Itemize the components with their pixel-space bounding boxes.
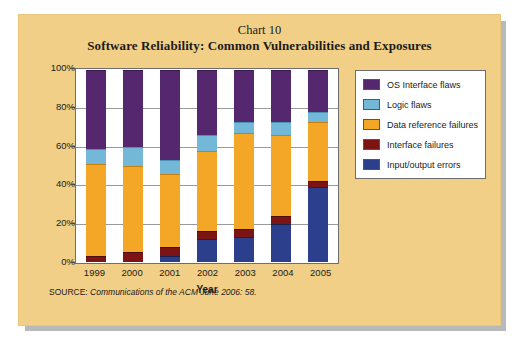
bar-segment[interactable]: [234, 122, 254, 134]
chart-card: Chart 10 Software Reliability: Common Vu…: [18, 14, 501, 326]
y-tick-label: 20%: [37, 217, 75, 228]
legend-swatch-icon: [363, 159, 380, 170]
bar-segment[interactable]: [86, 164, 106, 256]
bar-segment[interactable]: [86, 256, 106, 262]
x-tick-label: 1999: [84, 267, 104, 278]
bar-column[interactable]: [197, 70, 217, 262]
legend-item[interactable]: Logic flaws: [363, 99, 479, 110]
y-tick-label: 0%: [37, 256, 75, 267]
bar-segment[interactable]: [234, 229, 254, 237]
bar-segment[interactable]: [160, 247, 180, 257]
bar-segment[interactable]: [197, 70, 217, 135]
bar-segment[interactable]: [271, 135, 291, 216]
bar-segment[interactable]: [234, 237, 254, 262]
chart-number: Chart 10: [19, 23, 500, 38]
bar-segment[interactable]: [234, 133, 254, 229]
bar-column[interactable]: [234, 70, 254, 262]
stacked-bar[interactable]: [160, 70, 180, 262]
y-tick-label: 100%: [37, 62, 75, 73]
bar-column[interactable]: [271, 70, 291, 262]
bar-segment[interactable]: [123, 252, 143, 262]
bar-segment[interactable]: [271, 122, 291, 135]
bar-segment[interactable]: [123, 166, 143, 252]
bar-segment[interactable]: [271, 70, 291, 122]
plot-canvas: [75, 68, 339, 264]
bar-segment[interactable]: [86, 149, 106, 164]
legend-label: OS Interface flaws: [387, 80, 461, 90]
y-tick-label: 80%: [37, 101, 75, 112]
x-tick-label: 2002: [197, 267, 217, 278]
bar-segment[interactable]: [308, 112, 328, 122]
bar-segment[interactable]: [160, 256, 180, 262]
page-title: Software Reliability: Common Vulnerabili…: [19, 38, 500, 54]
legend-swatch-icon: [363, 99, 380, 110]
bar-segment[interactable]: [160, 174, 180, 247]
bar-segment[interactable]: [123, 147, 143, 166]
bar-segment[interactable]: [308, 187, 328, 262]
bar-segment[interactable]: [86, 70, 106, 149]
bar-segment[interactable]: [271, 216, 291, 224]
y-tick-label: 40%: [37, 178, 75, 189]
stacked-bar[interactable]: [86, 70, 106, 262]
stacked-bar[interactable]: [308, 70, 328, 262]
bar-segment[interactable]: [308, 70, 328, 112]
legend-item[interactable]: Interface failures: [363, 139, 479, 150]
bar-segment[interactable]: [197, 231, 217, 239]
legend-item[interactable]: OS Interface flaws: [363, 79, 479, 90]
source-label: SOURCE:: [49, 287, 88, 297]
y-tick-label: 60%: [37, 140, 75, 151]
title-block: Chart 10 Software Reliability: Common Vu…: [19, 23, 500, 54]
bar-segment[interactable]: [160, 70, 180, 160]
bar-segment[interactable]: [197, 135, 217, 150]
x-axis-labels: 1999200020012002200320042005: [75, 267, 339, 278]
bar-column[interactable]: [160, 70, 180, 262]
bar-segment[interactable]: [234, 70, 254, 122]
x-tick-label: 2005: [310, 267, 330, 278]
source-note: SOURCE: Communications of the ACM June 2…: [49, 287, 469, 297]
bar-column[interactable]: [308, 70, 328, 262]
legend-label: Input/output errors: [387, 160, 461, 170]
x-tick-label: 2001: [159, 267, 179, 278]
stacked-bar[interactable]: [234, 70, 254, 262]
screenshot-root: Chart 10 Software Reliability: Common Vu…: [0, 0, 515, 344]
legend-swatch-icon: [363, 119, 380, 130]
plot-area: 0%20%40%60%80%100% 199920002001200220032…: [59, 68, 339, 264]
legend-swatch-icon: [363, 79, 380, 90]
legend-label: Interface failures: [387, 140, 454, 150]
bar-group: [77, 70, 337, 262]
bar-segment[interactable]: [197, 151, 217, 232]
bar-segment[interactable]: [308, 122, 328, 182]
bar-segment[interactable]: [197, 239, 217, 262]
source-citation: Communications of the ACM June 2006: 58.: [90, 287, 256, 297]
legend-label: Data reference failures: [387, 120, 478, 130]
legend: OS Interface flawsLogic flawsData refere…: [355, 70, 486, 179]
stacked-bar[interactable]: [197, 70, 217, 262]
legend-swatch-icon: [363, 139, 380, 150]
legend-item[interactable]: Data reference failures: [363, 119, 479, 130]
bar-segment[interactable]: [271, 224, 291, 262]
bar-column[interactable]: [123, 70, 143, 262]
x-tick-label: 2000: [122, 267, 142, 278]
legend-label: Logic flaws: [387, 100, 432, 110]
stacked-bar[interactable]: [271, 70, 291, 262]
bar-segment[interactable]: [123, 70, 143, 147]
y-axis: 0%20%40%60%80%100%: [37, 61, 75, 271]
legend-item[interactable]: Input/output errors: [363, 159, 479, 170]
x-tick-label: 2004: [272, 267, 292, 278]
bar-segment[interactable]: [160, 160, 180, 173]
stacked-bar[interactable]: [123, 70, 143, 262]
bar-column[interactable]: [86, 70, 106, 262]
x-tick-label: 2003: [235, 267, 255, 278]
